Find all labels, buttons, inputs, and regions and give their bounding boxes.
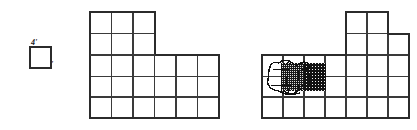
- unit-square-key: [30, 47, 51, 68]
- middle-figure: [90, 12, 219, 118]
- worksheet-canvas: 4' 4': [0, 0, 417, 130]
- scribble-blob: [268, 60, 326, 94]
- unit-square: [30, 47, 51, 68]
- figures-svg: [0, 0, 417, 130]
